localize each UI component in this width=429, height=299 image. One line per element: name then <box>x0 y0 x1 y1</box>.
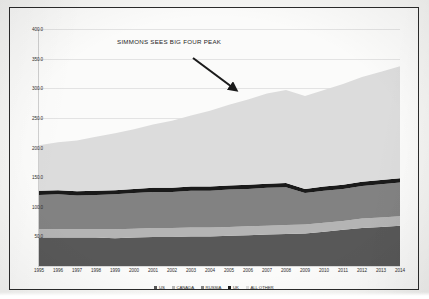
x-axis-tick: 2007 <box>262 268 272 273</box>
legend-swatch-icon <box>246 286 249 289</box>
x-axis-tick: 2014 <box>395 268 405 273</box>
x-axis-tick: 2013 <box>376 268 386 273</box>
y-axis-tick: 200.0 <box>32 145 43 150</box>
x-axis-tick: 2010 <box>319 268 329 273</box>
y-axis-tick: 350.0 <box>32 56 43 61</box>
y-axis-tick: 100.0 <box>32 204 43 209</box>
legend-label: CANADA <box>176 285 194 290</box>
y-axis-tick-labels: 400.0350.0300.0250.0200.0150.0100.050.0 <box>19 22 43 274</box>
legend-label: RUSSIA <box>206 285 222 290</box>
scanned-slide: 400.0350.0300.0250.0200.0150.0100.050.0 … <box>0 0 429 299</box>
x-axis-tick: 2002 <box>167 268 177 273</box>
x-axis-tick: 2006 <box>243 268 253 273</box>
scan-bottom-edge <box>0 292 429 299</box>
x-axis-tick: 2008 <box>281 268 291 273</box>
x-axis-tick-labels: 1995199619971998199920002001200220032004… <box>39 268 400 280</box>
x-axis-tick: 2000 <box>129 268 139 273</box>
x-axis-tick: 2011 <box>338 268 348 273</box>
x-axis-tick: 2005 <box>224 268 234 273</box>
x-axis-line <box>39 266 400 267</box>
x-axis-tick: 1999 <box>110 268 120 273</box>
x-axis-tick: 1996 <box>53 268 63 273</box>
x-axis-tick: 1995 <box>34 268 44 273</box>
legend-item-uk[interactable]: UK <box>228 285 238 290</box>
x-axis-tick: 1997 <box>72 268 82 273</box>
legend-item-canada[interactable]: CANADA <box>172 285 194 290</box>
legend-item-us[interactable]: US <box>154 285 164 290</box>
legend-swatch-icon <box>228 286 231 289</box>
legend-swatch-icon <box>154 286 157 289</box>
x-axis-tick: 2003 <box>186 268 196 273</box>
legend-label: ALL OTHER <box>250 285 273 290</box>
x-axis-tick: 2001 <box>148 268 158 273</box>
y-axis-tick: 150.0 <box>32 175 43 180</box>
chart-title: SIMMONS SEES BIG FOUR PEAK <box>117 38 221 45</box>
x-axis-tick: 2009 <box>300 268 310 273</box>
legend-label: UK <box>233 285 239 290</box>
x-axis-tick: 2012 <box>357 268 367 273</box>
arrow-shaft <box>193 58 236 90</box>
x-axis-tick: 1998 <box>91 268 101 273</box>
y-axis-tick: 300.0 <box>32 86 43 91</box>
legend-item-russia[interactable]: RUSSIA <box>201 285 221 290</box>
legend-swatch-icon <box>172 286 175 289</box>
callout-arrow-icon <box>188 52 244 98</box>
y-axis-tick: 250.0 <box>32 115 43 120</box>
legend-swatch-icon <box>201 286 204 289</box>
legend-item-all-other[interactable]: ALL OTHER <box>246 285 274 290</box>
legend-label: US <box>159 285 165 290</box>
chart-legend: USCANADARUSSIAUKALL OTHER <box>10 285 418 290</box>
slide-border: 400.0350.0300.0250.0200.0150.0100.050.0 … <box>9 7 419 290</box>
y-axis-tick: 50.0 <box>34 234 43 239</box>
x-axis-tick: 2004 <box>205 268 215 273</box>
y-axis-tick: 400.0 <box>32 27 43 32</box>
